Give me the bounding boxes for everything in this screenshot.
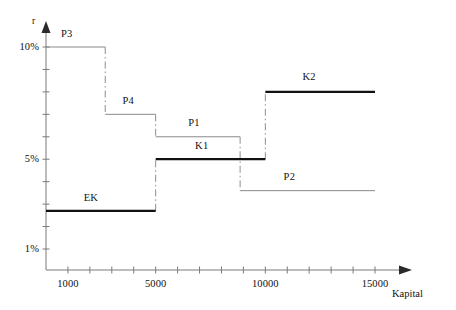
x-axis-title: Kapital xyxy=(392,289,423,300)
y-tick-label: 1% xyxy=(0,244,39,255)
segment-label-P4: P4 xyxy=(98,96,158,107)
segment-label-P3: P3 xyxy=(37,29,97,40)
y-axis-name: r xyxy=(32,17,35,27)
y-tick-label: 10% xyxy=(0,42,39,53)
chart-canvas: r Kapital 1%5%10% 100050001000015000 P3P… xyxy=(0,0,456,310)
step-connectors-group xyxy=(105,47,265,211)
x-tick-label: 15000 xyxy=(335,279,415,290)
x-tick-label: 1000 xyxy=(28,279,108,290)
segment-label-EK: EK xyxy=(61,193,121,204)
segment-label-K2: K2 xyxy=(279,72,339,83)
segment-label-P2: P2 xyxy=(259,172,319,183)
x-tick-label: 10000 xyxy=(225,279,305,290)
x-tick-label: 5000 xyxy=(116,279,196,290)
x-axis-arrowhead xyxy=(399,266,412,275)
y-tick-label: 5% xyxy=(0,154,39,165)
segment-label-P1: P1 xyxy=(164,118,224,129)
chart-plot-svg xyxy=(0,0,456,310)
segment-label-K1: K1 xyxy=(172,141,232,152)
